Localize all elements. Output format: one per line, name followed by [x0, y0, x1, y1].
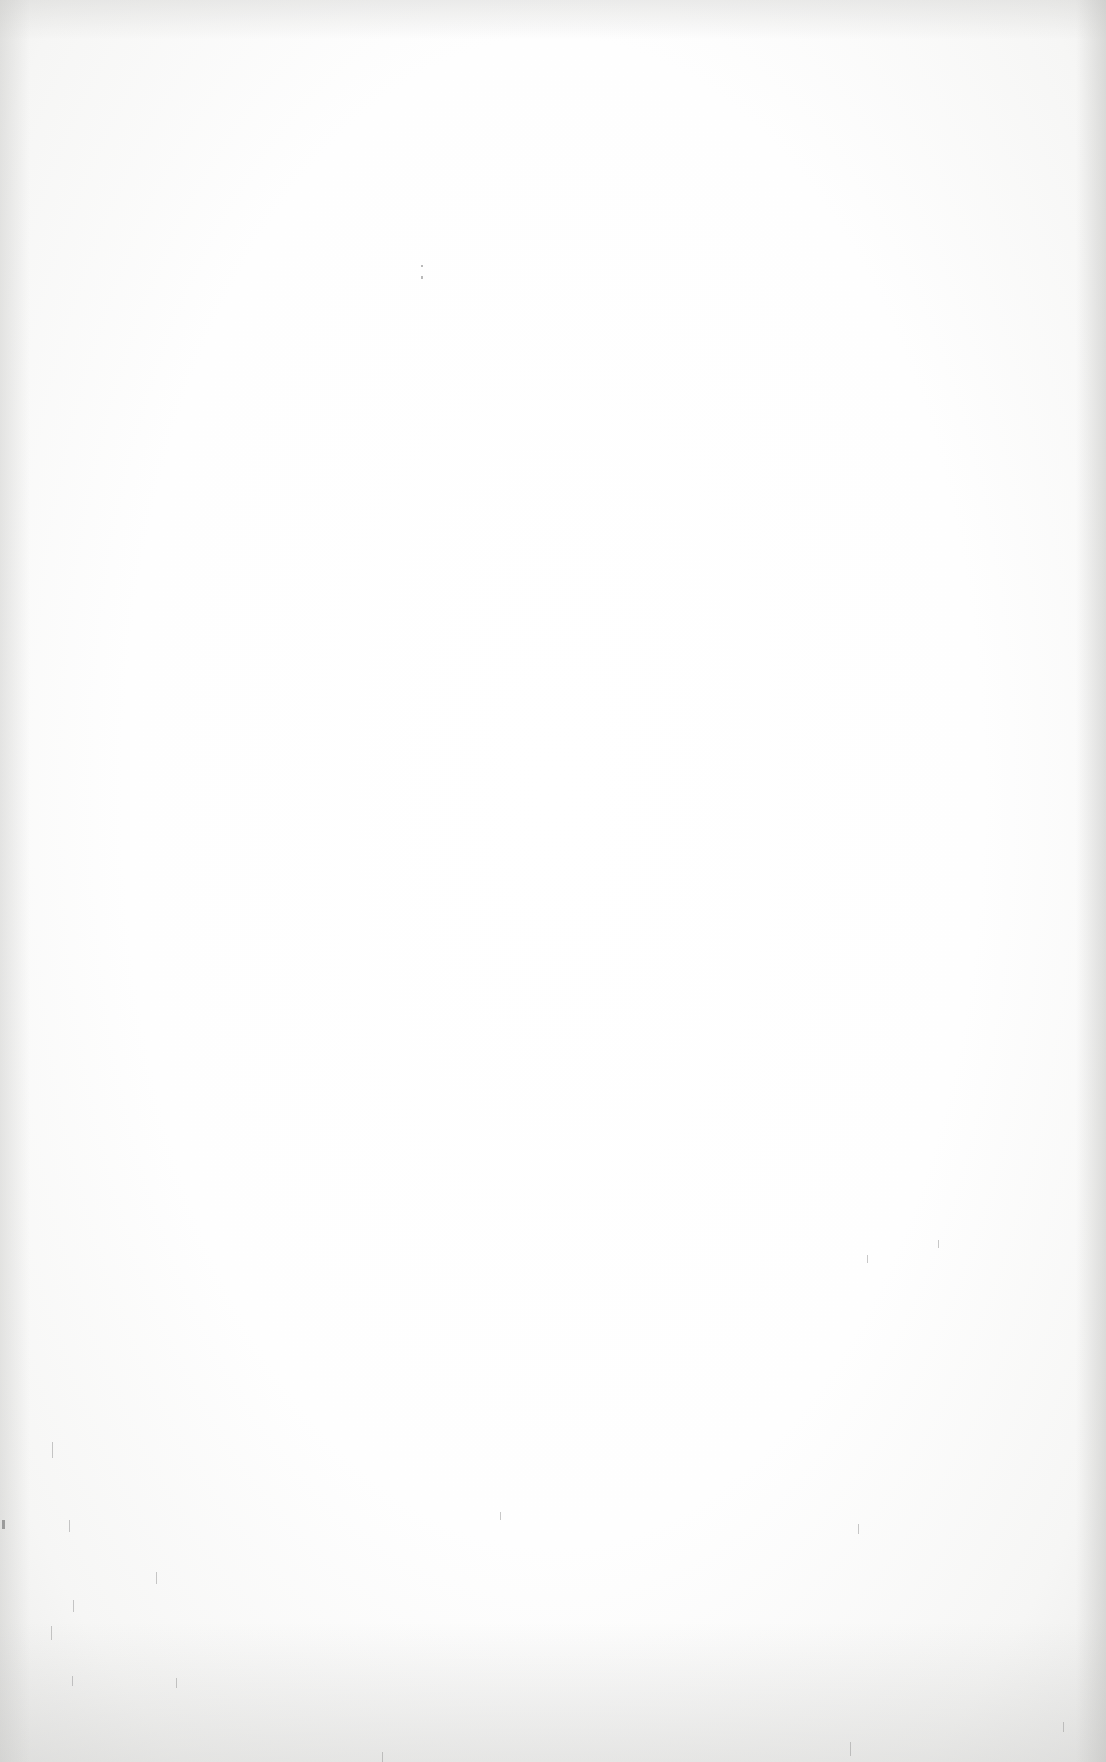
- scan-mark: [73, 1600, 74, 1612]
- scan-mark: [51, 1626, 52, 1640]
- scan-edge-shadow-left: [0, 0, 30, 1762]
- blank-scanned-page: [0, 0, 1106, 1762]
- scan-speck: [2, 1520, 5, 1529]
- scan-speck: [421, 276, 423, 279]
- scan-mark: [52, 1442, 53, 1458]
- scan-mark: [858, 1524, 859, 1534]
- scan-mark: [867, 1255, 868, 1263]
- scan-edge-shadow-top: [0, 0, 1106, 40]
- scan-mark: [72, 1676, 73, 1686]
- scan-mark: [69, 1520, 70, 1532]
- scan-mark: [1063, 1722, 1064, 1732]
- scan-mark: [156, 1572, 157, 1584]
- scan-mark: [500, 1512, 501, 1520]
- scan-edge-shadow-bottom: [0, 1622, 1106, 1762]
- scan-edge-shadow-right: [1076, 0, 1106, 1762]
- scan-speck: [421, 265, 423, 267]
- scan-mark: [176, 1678, 177, 1688]
- scan-mark: [382, 1752, 383, 1762]
- scan-mark: [850, 1742, 851, 1756]
- scan-mark: [938, 1240, 939, 1248]
